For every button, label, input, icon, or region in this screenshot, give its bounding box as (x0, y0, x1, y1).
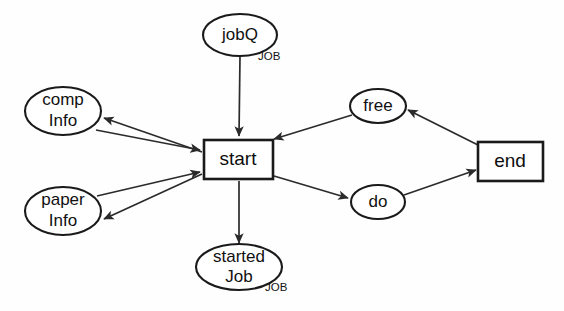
node-paper-info-label-line2: Info (49, 211, 77, 230)
edge-start-to-do (274, 176, 348, 198)
node-comp-info-label-line1: comp (42, 90, 84, 109)
node-jobq[interactable]: jobQ JOB (203, 14, 281, 62)
diagram-canvas: jobQ JOB comp Info paper Info start (0, 0, 564, 311)
node-started-job-label-line2: Job (225, 267, 252, 286)
nodes-layer: jobQ JOB comp Info paper Info start (25, 14, 543, 293)
edge-jobq-to-start (239, 56, 240, 136)
edges-layer (96, 56, 478, 243)
node-jobq-type-label: JOB (258, 50, 281, 62)
node-comp-info[interactable]: comp Info (25, 87, 101, 135)
edge-free-to-start (274, 115, 352, 139)
node-free[interactable]: free (350, 89, 406, 123)
node-paper-info[interactable]: paper Info (25, 187, 101, 235)
node-start[interactable]: start (204, 140, 273, 179)
edge-end-to-free (408, 110, 478, 145)
node-free-label: free (363, 96, 392, 115)
node-comp-info-label-line2: Info (49, 111, 77, 130)
node-paper-info-label-line1: paper (41, 190, 85, 209)
node-started-job-type-label: JOB (265, 281, 288, 293)
node-do-label: do (369, 192, 388, 211)
node-end-label: end (494, 150, 526, 171)
edge-do-to-end (404, 170, 476, 195)
node-end[interactable]: end (478, 142, 543, 181)
node-started-job[interactable]: started Job JOB (196, 244, 288, 293)
node-do[interactable]: do (351, 185, 405, 219)
edge-paper-info-to-start (97, 172, 200, 196)
node-start-label: start (220, 148, 258, 169)
node-jobq-label: jobQ (221, 25, 258, 44)
diagram-svg: jobQ JOB comp Info paper Info start (0, 0, 564, 311)
node-started-job-label-line1: started (213, 247, 265, 266)
edge-start-to-paper-info (104, 174, 202, 219)
